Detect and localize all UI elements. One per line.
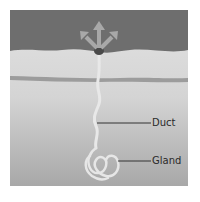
sweat-gland-diagram: Duct Gland: [10, 10, 188, 186]
gland-label: Gland: [152, 155, 181, 167]
duct-label: Duct: [152, 117, 175, 129]
